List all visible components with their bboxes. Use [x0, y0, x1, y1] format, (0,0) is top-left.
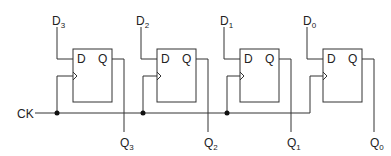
clk-wire	[310, 76, 323, 113]
d1-wire	[224, 27, 240, 59]
junction-dot	[141, 111, 146, 116]
flipflop-3: D3 D Q Q3	[52, 14, 134, 152]
input-label-d0: D0	[303, 14, 317, 30]
junction-dot	[225, 111, 230, 116]
pin-d: D	[77, 52, 86, 66]
clk-wire	[227, 76, 240, 113]
output-label-q1: Q1	[287, 136, 301, 152]
clock-label: CK	[17, 107, 34, 121]
clk-wire	[57, 76, 73, 113]
pin-q: Q	[182, 52, 191, 66]
clk-wire	[143, 76, 157, 113]
flipflop-0: D0 D Q Q0	[303, 14, 384, 152]
pin-q: Q	[348, 52, 357, 66]
pin-d: D	[327, 52, 336, 66]
pin-q: Q	[265, 52, 274, 66]
register-circuit: CK D3 D Q Q3 D2 D Q Q2 D1 D Q Q1	[0, 0, 391, 156]
output-label-q3: Q3	[120, 136, 134, 152]
q0-wire	[362, 59, 374, 132]
output-label-q2: Q2	[204, 136, 218, 152]
d3-wire	[57, 27, 73, 59]
pin-d: D	[161, 52, 170, 66]
q1-wire	[279, 59, 291, 132]
input-label-d1: D1	[220, 14, 234, 30]
pin-q: Q	[98, 52, 107, 66]
d0-wire	[307, 27, 323, 59]
flipflop-2: D2 D Q Q2	[136, 14, 218, 152]
flipflop-1: D1 D Q Q1	[220, 14, 301, 152]
junction-dot	[55, 111, 60, 116]
q3-wire	[112, 59, 124, 132]
d2-wire	[141, 27, 157, 59]
input-label-d2: D2	[136, 14, 150, 30]
pin-d: D	[244, 52, 253, 66]
output-label-q0: Q0	[370, 136, 384, 152]
q2-wire	[196, 59, 208, 132]
input-label-d3: D3	[52, 14, 66, 30]
